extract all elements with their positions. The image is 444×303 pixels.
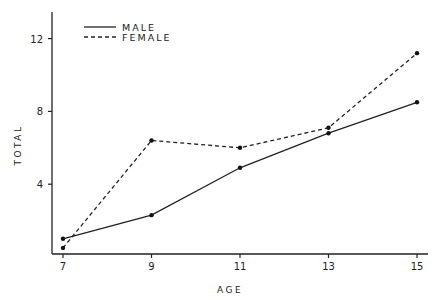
y-tick-label: 4: [37, 179, 43, 190]
y-axis-label: TOTAL: [13, 124, 23, 166]
line-chart: 481279111315 MALE FEMALE AGE TOTAL: [0, 0, 444, 303]
x-tick-label: 15: [411, 261, 424, 272]
y-tick-label: 8: [37, 106, 43, 117]
data-point-female: [326, 126, 330, 130]
x-tick-label: 9: [148, 261, 154, 272]
x-tick-label: 7: [60, 261, 66, 272]
series-line-male: [63, 102, 417, 239]
data-point-male: [149, 213, 153, 217]
data-point-male: [238, 166, 242, 170]
axes: 481279111315: [30, 12, 428, 272]
data-point-female: [415, 51, 419, 55]
legend-female-label: FEMALE: [122, 32, 171, 43]
x-tick-label: 11: [234, 261, 247, 272]
series-line-female: [63, 53, 417, 248]
data-point-male: [61, 237, 65, 241]
data-point-male: [415, 100, 419, 104]
x-axis-label: AGE: [217, 285, 243, 295]
data-point-male: [326, 131, 330, 135]
series-group: [61, 51, 419, 250]
data-point-female: [149, 138, 153, 142]
data-point-female: [238, 146, 242, 150]
data-point-female: [61, 246, 65, 250]
x-tick-label: 13: [322, 261, 335, 272]
y-tick-label: 12: [30, 34, 43, 45]
legend: MALE FEMALE: [84, 22, 171, 43]
